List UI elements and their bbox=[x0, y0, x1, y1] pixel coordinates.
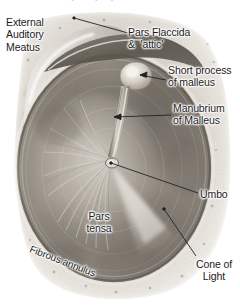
label-pars-flaccida: Pars Flaccida & 'attic' bbox=[128, 26, 228, 51]
anatomy-figure: The right tympanic membrane bbox=[0, 0, 240, 307]
label-short-process-of-malleus: Short process of malleus bbox=[168, 64, 240, 89]
label-cone-of-light: Cone of Light bbox=[188, 258, 240, 283]
label-manubrium-of-malleus: Manubrium of Malleus bbox=[173, 102, 240, 127]
label-external-auditory-meatus: External Auditory Meatus bbox=[6, 16, 86, 53]
label-umbo: Umbo bbox=[200, 188, 240, 200]
label-pars-tensa: Pars tensa bbox=[74, 210, 124, 235]
